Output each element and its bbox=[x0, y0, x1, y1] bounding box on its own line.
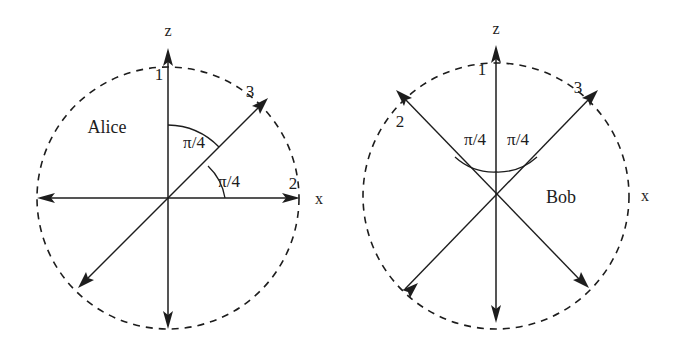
bob-angle-label-z-to-3: π/4 bbox=[507, 130, 529, 149]
alice-panel-name-label: Alice bbox=[88, 117, 127, 137]
alice-direction-2-label: 2 bbox=[289, 174, 298, 193]
alice-angle-label-3-to-x: π/4 bbox=[218, 172, 240, 191]
alice-panel: z x 1 2 3 π/4 π/4 Alice bbox=[37, 22, 323, 329]
alice-z-axis-label: z bbox=[164, 22, 171, 39]
bob-direction-3-label: 3 bbox=[574, 78, 583, 97]
diagram-svg: z x 1 2 3 π/4 π/4 Alice bbox=[0, 0, 682, 344]
bob-panel-name-label: Bob bbox=[546, 187, 576, 207]
alice-direction-1-label: 1 bbox=[155, 65, 164, 84]
bob-angle-arc-2-to-z bbox=[455, 157, 496, 172]
bob-x-axis-label: x bbox=[641, 187, 649, 204]
bob-z-axis-label: z bbox=[492, 20, 499, 37]
bob-direction-2-label: 2 bbox=[396, 112, 405, 131]
bob-angle-label-2-to-z: π/4 bbox=[464, 130, 486, 149]
bob-panel: z x 1 2 3 π/4 π/4 Bob bbox=[363, 20, 649, 329]
alice-angle-label-z-to-3: π/4 bbox=[183, 133, 205, 152]
alice-x-axis-label: x bbox=[315, 190, 323, 207]
bob-direction-1-label: 1 bbox=[478, 60, 487, 79]
figure-container: z x 1 2 3 π/4 π/4 Alice bbox=[0, 0, 682, 344]
alice-direction-3-label: 3 bbox=[246, 82, 255, 101]
bob-direction-3-opposite-arrowhead bbox=[402, 283, 418, 298]
